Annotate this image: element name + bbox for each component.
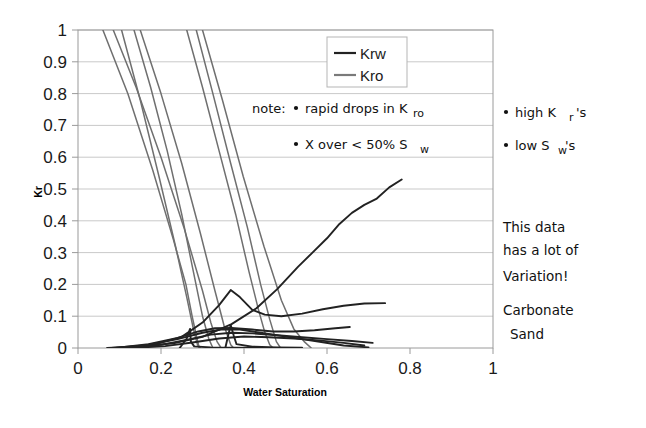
x-tick-label: 0.4 [232, 359, 256, 378]
right-bullet-1-text: high K [515, 105, 556, 120]
right-bullet-1-icon [504, 110, 508, 114]
x-axis-title: Water Saturation [243, 386, 327, 398]
note-bullet-2-subscript: w [420, 143, 429, 156]
y-axis-ticks [72, 30, 78, 348]
relative-permeability-chart: 00.20.40.60.81 00.10.20.30.40.50.60.70.8… [0, 0, 646, 428]
note-bullet-1-icon [294, 106, 298, 110]
y-tick-label: 0.9 [43, 53, 67, 72]
note-bullet-1-subscript: ro [413, 107, 424, 120]
side-note-line-3: Variation! [503, 268, 568, 284]
x-axis-ticks [78, 348, 493, 354]
y-tick-labels: 00.10.20.30.40.50.60.70.80.91 [43, 21, 67, 358]
note-bullet-1-text: rapid drops in K [305, 101, 408, 116]
right-bullet-2-suffix: 's [565, 138, 576, 153]
side-note-line-4: Carbonate [503, 302, 574, 318]
legend-label-krw: Krw [360, 45, 386, 62]
right-bullet-1-suffix: 's [576, 105, 587, 120]
y-tick-label: 0.3 [43, 244, 67, 263]
right-bullet-2-icon [504, 143, 508, 147]
x-tick-label: 0.8 [398, 359, 422, 378]
handwritten-annotations: note: rapid drops in K ro X over < 50% S… [252, 101, 587, 342]
y-axis-title: Kr [32, 186, 44, 198]
x-tick-label: 0 [73, 359, 82, 378]
side-note-line-1: This data [502, 219, 565, 235]
note-bullet-2-text: X over < 50% S [305, 137, 407, 152]
chart-container: 00.20.40.60.81 00.10.20.30.40.50.60.70.8… [0, 0, 646, 428]
y-tick-label: 0.6 [43, 148, 67, 167]
gridlines [78, 30, 493, 316]
right-bullet-2-text: low S [515, 138, 550, 153]
x-tick-label: 0.6 [315, 359, 339, 378]
data-series-krw-9 [120, 290, 386, 348]
legend-label-kro: Kro [360, 67, 383, 84]
y-tick-label: 0.4 [43, 212, 67, 231]
side-note-line-2: has a lot of [503, 242, 580, 258]
y-tick-label: 1 [58, 21, 67, 40]
y-tick-label: 0.5 [43, 180, 67, 199]
right-bullet-1-subscript: r [569, 111, 574, 124]
note-bullet-2-icon [294, 142, 298, 146]
chart-legend[interactable]: Krw Kro [327, 37, 407, 87]
x-tick-labels: 00.20.40.60.81 [73, 359, 497, 378]
y-tick-label: 0.2 [43, 275, 67, 294]
note-label: note: [252, 101, 286, 116]
y-tick-label: 0.1 [43, 307, 67, 326]
y-tick-label: 0.7 [43, 116, 67, 135]
y-tick-label: 0.8 [43, 85, 67, 104]
side-note-line-5: Sand [510, 326, 544, 342]
data-series-krw-8 [107, 179, 402, 348]
y-tick-label: 0 [58, 339, 67, 358]
x-tick-label: 0.2 [149, 359, 173, 378]
x-tick-label: 1 [488, 359, 497, 378]
